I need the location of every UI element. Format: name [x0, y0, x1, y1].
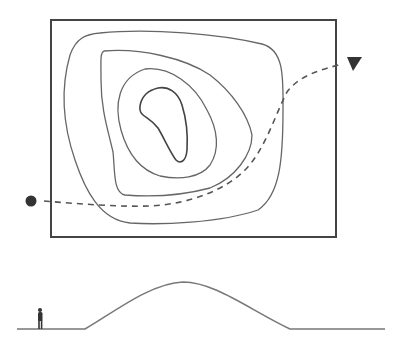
contour-line-2 [101, 50, 252, 195]
person-icon [38, 308, 43, 329]
terrain-profile [17, 282, 385, 329]
contour-line-3 [118, 69, 217, 178]
topographic-diagram [0, 0, 401, 357]
contour-line-4 [140, 88, 187, 162]
start-marker-icon [26, 196, 37, 207]
end-arrow-icon [347, 57, 362, 71]
route-path [44, 64, 342, 206]
